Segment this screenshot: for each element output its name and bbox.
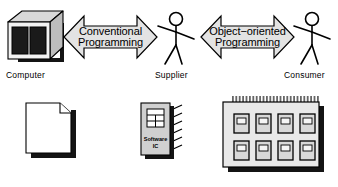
consumer-label: Consumer	[284, 70, 325, 80]
software-ic-line1: Software	[144, 136, 168, 142]
board-chip	[256, 141, 271, 160]
oo-arrow-line2: Programming	[215, 36, 280, 48]
board-chip	[234, 114, 249, 133]
object-oriented-programming-arrow: Object−oriented Programming	[199, 11, 296, 63]
diagram-canvas: Computer Conventional Programming Suppli…	[0, 0, 338, 187]
computer-label: Computer	[6, 70, 45, 80]
software-ic-chip-icon: Software IC	[138, 100, 190, 164]
conventional-arrow-line2: Programming	[78, 36, 143, 48]
circuit-board-icon	[218, 94, 330, 176]
board-chip	[234, 141, 249, 160]
supplier-label: Supplier	[155, 70, 188, 80]
board-chip	[278, 141, 293, 160]
board-chip	[278, 114, 293, 133]
software-ic-line2: IC	[153, 143, 159, 149]
page-document-icon	[24, 100, 82, 162]
conventional-programming-arrow: Conventional Programming	[62, 11, 159, 63]
board-chip	[300, 114, 315, 133]
computer-box-icon	[6, 9, 68, 65]
board-chip	[256, 114, 271, 133]
consumer-stick-figure-icon	[291, 11, 333, 67]
supplier-stick-figure-icon	[155, 11, 197, 67]
board-chip	[300, 141, 315, 160]
